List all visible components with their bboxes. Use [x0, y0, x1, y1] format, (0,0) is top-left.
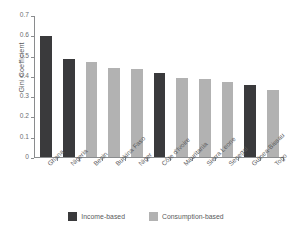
legend-item: Consumption-based — [149, 212, 224, 221]
y-axis-tick: 0.7 — [10, 16, 34, 17]
y-axis-tick: 0.4 — [10, 77, 34, 78]
bar-slot — [148, 16, 171, 157]
y-axis-tick: 0.5 — [10, 57, 34, 58]
legend-label: Income-based — [81, 213, 125, 220]
x-axis-label-slot: Burkina Faso — [103, 161, 126, 205]
bar-slot — [171, 16, 194, 157]
y-axis-tick-label: 0.5 — [20, 52, 29, 59]
x-axis-label-slot: Côte d'Ivoire — [148, 161, 171, 205]
x-axis-label-slot: Ghana — [35, 161, 58, 205]
chart-legend: Income-basedConsumption-based — [0, 212, 292, 221]
y-axis-tick-mark — [31, 158, 34, 159]
bar-slot — [216, 16, 239, 157]
legend-item: Income-based — [68, 212, 125, 221]
y-axis-tick-mark — [31, 16, 34, 17]
y-axis-tick-mark — [31, 117, 34, 118]
bar-nigeria — [63, 59, 75, 157]
y-axis-tick: 0.6 — [10, 36, 34, 37]
plot-area: 0.70.60.50.40.30.20.10 — [34, 16, 284, 158]
y-axis-tick-label: 0.1 — [20, 133, 29, 140]
legend-label: Consumption-based — [162, 213, 224, 220]
x-axis-label-slot: Sierra Leone — [193, 161, 216, 205]
x-axis-label-slot: Togo — [261, 161, 284, 205]
bar-series-container — [35, 16, 284, 157]
x-axis-label-slot: Nigeria — [58, 161, 81, 205]
bar-c-te-d-ivoire — [154, 73, 166, 157]
y-axis-tick-mark — [31, 138, 34, 139]
y-axis-tick-label: 0.3 — [20, 92, 29, 99]
y-axis-tick-mark — [31, 97, 34, 98]
legend-swatch — [68, 212, 77, 221]
x-axis-label-slot: Senegal — [216, 161, 239, 205]
y-axis-tick-label: 0 — [25, 153, 29, 160]
y-axis-tick-label: 0.6 — [20, 31, 29, 38]
y-axis-tick-mark — [31, 57, 34, 58]
x-axis-label-slot: Mauritania — [171, 161, 194, 205]
y-axis-tick: 0 — [10, 158, 34, 159]
bar-benin — [86, 62, 98, 157]
bar-slot — [126, 16, 149, 157]
y-axis-tick-label: 0.7 — [20, 11, 29, 18]
y-axis-tick: 0.1 — [10, 138, 34, 139]
gini-coefficient-bar-chart: Gini Coefficient 0.70.60.50.40.30.20.10 … — [0, 0, 292, 238]
bar-slot — [58, 16, 81, 157]
y-axis-tick-mark — [31, 77, 34, 78]
bar-slot — [80, 16, 103, 157]
x-axis-label-slot: Guinea-Bissau — [239, 161, 262, 205]
bar-slot — [239, 16, 262, 157]
bar-slot — [103, 16, 126, 157]
y-axis-tick-mark — [31, 36, 34, 37]
x-axis-label-slot: Niger — [126, 161, 149, 205]
legend-swatch — [149, 212, 158, 221]
y-axis-tick: 0.2 — [10, 117, 34, 118]
y-axis-tick-label: 0.4 — [20, 72, 29, 79]
bar-ghana — [40, 36, 52, 157]
bar-burkina-faso — [108, 68, 120, 157]
x-axis-labels: GhanaNigeriaBeninBurkina FasoNigerCôte d… — [35, 161, 284, 205]
y-axis-tick: 0.3 — [10, 97, 34, 98]
bar-slot — [35, 16, 58, 157]
bar-slot — [193, 16, 216, 157]
x-axis-label-slot: Benin — [80, 161, 103, 205]
y-axis-tick-label: 0.2 — [20, 112, 29, 119]
